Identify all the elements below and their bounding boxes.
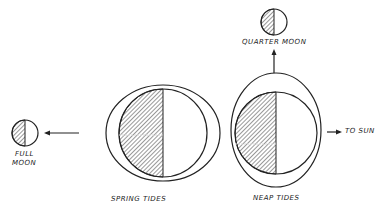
to-sun-label: TO SUN [345, 127, 375, 135]
tides-diagram: FULL MOON QUARTER MOON SPRING TIDES NEAP… [0, 0, 380, 211]
arrow-to-quarter-moon [272, 49, 277, 73]
arrow-to-full-moon [44, 131, 79, 136]
neap-tides-label: NEAP TIDES [253, 194, 300, 202]
diagram-graphics [0, 0, 380, 211]
neap-tides-earth [231, 73, 321, 187]
full-moon-label-line1: FULL [15, 150, 34, 158]
spring-tides-earth [106, 85, 220, 181]
quarter-moon-label: QUARTER MOON [242, 38, 306, 46]
full-moon-label-line2: MOON [12, 159, 36, 167]
arrow-to-sun [327, 130, 342, 135]
full-moon-icon [12, 120, 38, 146]
quarter-moon-icon [261, 9, 287, 35]
spring-tides-label: SPRING TIDES [111, 195, 166, 203]
